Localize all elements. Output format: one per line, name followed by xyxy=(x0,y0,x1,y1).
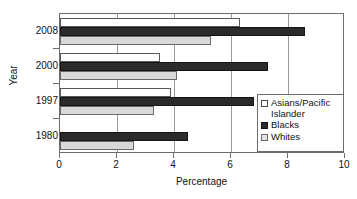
y-tick xyxy=(53,83,59,84)
legend-item-asian[interactable]: Asians/Pacific Islander xyxy=(261,98,341,119)
legend-item-black[interactable]: Blacks xyxy=(261,120,341,131)
x-tick-label: 0 xyxy=(44,159,74,170)
bar-1997-white xyxy=(60,106,154,115)
legend-label: Blacks xyxy=(271,120,299,131)
bar-1980-white xyxy=(60,141,134,150)
bar-1997-black xyxy=(60,97,254,106)
legend-swatch-asian-icon xyxy=(261,100,268,107)
x-tick xyxy=(287,153,288,158)
x-tick-label: 4 xyxy=(158,159,188,170)
bar-1980-black xyxy=(60,132,188,141)
x-axis-title: Percentage xyxy=(59,176,344,187)
x-tick-label: 6 xyxy=(215,159,245,170)
x-tick xyxy=(173,153,174,158)
x-tick xyxy=(59,153,60,158)
y-tick xyxy=(53,118,59,119)
bar-2000-asian xyxy=(60,53,160,62)
y-axis-title: Year xyxy=(8,46,19,106)
x-tick xyxy=(230,153,231,158)
bar-2000-black xyxy=(60,62,268,71)
x-tick-label: 2 xyxy=(101,159,131,170)
y-tick-label-2008: 2008 xyxy=(0,25,58,36)
x-tick-label: 8 xyxy=(272,159,302,170)
legend-label: Whites xyxy=(271,132,300,143)
legend-swatch-white-icon xyxy=(261,134,268,141)
y-tick-label-1980: 1980 xyxy=(0,130,58,141)
x-tick-label: 10 xyxy=(329,159,357,170)
bar-2008-white xyxy=(60,36,211,45)
bar-2008-asian xyxy=(60,18,240,27)
legend-swatch-black-icon xyxy=(261,122,268,129)
x-tick xyxy=(344,153,345,158)
legend-item-white[interactable]: Whites xyxy=(261,132,341,143)
bar-chart: 0246810 Percentage 2008200019971980 Year… xyxy=(0,0,357,199)
bar-2008-black xyxy=(60,27,305,36)
legend-label: Asians/Pacific Islander xyxy=(271,98,341,119)
bar-2000-white xyxy=(60,71,177,80)
bar-1997-asian xyxy=(60,88,171,97)
legend: Asians/Pacific IslanderBlacksWhites xyxy=(257,94,344,152)
y-tick xyxy=(53,48,59,49)
x-tick xyxy=(116,153,117,158)
